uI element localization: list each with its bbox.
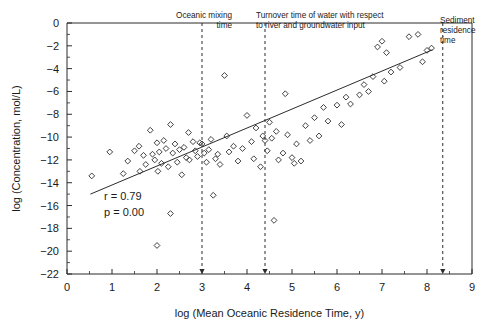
data-point bbox=[420, 59, 426, 65]
data-point bbox=[298, 158, 304, 164]
regression-line bbox=[90, 50, 432, 194]
annotation-label-turnover-time-water: Turnover time of water with respect bbox=[256, 11, 384, 20]
annotation-arrowhead-turnover-time-water bbox=[262, 269, 267, 274]
data-point bbox=[161, 138, 167, 144]
data-point bbox=[132, 148, 138, 154]
annotation-arrowhead-sediment-residence-time bbox=[440, 269, 445, 274]
y-tick-label: −20 bbox=[40, 245, 59, 257]
data-point bbox=[152, 157, 158, 163]
y-tick-label: −4 bbox=[46, 63, 59, 75]
data-point bbox=[388, 69, 394, 75]
data-point bbox=[186, 130, 192, 136]
data-point bbox=[339, 122, 345, 128]
data-point bbox=[155, 168, 161, 174]
data-point bbox=[208, 136, 214, 142]
x-tick-label: 2 bbox=[154, 281, 160, 293]
data-point bbox=[271, 217, 277, 223]
data-point bbox=[125, 158, 131, 164]
data-point bbox=[276, 157, 282, 163]
y-tick-label: −18 bbox=[40, 222, 59, 234]
data-point bbox=[170, 150, 176, 156]
data-point bbox=[174, 159, 180, 165]
data-point bbox=[348, 101, 354, 107]
y-tick-label: 0 bbox=[53, 17, 59, 29]
data-point bbox=[379, 38, 385, 44]
data-point bbox=[273, 128, 279, 134]
data-point bbox=[366, 89, 372, 95]
data-point bbox=[325, 118, 331, 124]
data-point bbox=[168, 122, 174, 128]
annotation-label-sediment-residence-time: Sediment bbox=[440, 16, 475, 25]
data-point bbox=[415, 32, 421, 38]
data-point bbox=[321, 105, 327, 111]
data-point bbox=[222, 73, 228, 79]
data-point bbox=[156, 149, 162, 155]
x-tick-label: 1 bbox=[109, 281, 115, 293]
y-tick-label: −10 bbox=[40, 131, 59, 143]
annotation-label-sediment-residence-time: residence bbox=[440, 26, 476, 35]
annotation-label-oceanic-mixing-time: time bbox=[217, 21, 233, 30]
data-point bbox=[89, 173, 95, 179]
data-point bbox=[231, 143, 237, 149]
data-point bbox=[120, 171, 126, 177]
y-tick-label: −12 bbox=[40, 154, 59, 166]
y-tick-label: −2 bbox=[46, 40, 59, 52]
y-tick-label: −8 bbox=[46, 108, 59, 120]
y-tick-label: −22 bbox=[40, 268, 59, 280]
data-point bbox=[291, 160, 297, 166]
x-tick-label: 5 bbox=[289, 281, 295, 293]
data-point bbox=[240, 146, 246, 152]
data-point bbox=[303, 123, 309, 129]
data-point bbox=[375, 44, 381, 50]
data-point bbox=[136, 143, 142, 149]
data-point bbox=[334, 102, 340, 108]
data-point bbox=[154, 140, 160, 146]
data-point bbox=[285, 132, 291, 138]
data-point bbox=[107, 149, 113, 155]
data-point bbox=[357, 92, 363, 98]
scatter-plot-figure: 01234567890−2−4−6−8−10−12−14−16−18−20−22… bbox=[0, 0, 490, 327]
data-point bbox=[206, 147, 212, 153]
data-point bbox=[150, 151, 156, 157]
data-point bbox=[165, 164, 171, 170]
data-point bbox=[269, 135, 275, 141]
data-point bbox=[406, 34, 412, 40]
x-tick-label: 4 bbox=[244, 281, 250, 293]
data-point bbox=[289, 155, 295, 161]
y-tick-label: −6 bbox=[46, 85, 59, 97]
data-point bbox=[143, 162, 149, 168]
data-point bbox=[361, 82, 367, 88]
plot-canvas: 01234567890−2−4−6−8−10−12−14−16−18−20−22… bbox=[0, 0, 490, 327]
data-point bbox=[179, 172, 185, 178]
data-point bbox=[210, 192, 216, 198]
data-point bbox=[147, 127, 153, 133]
annotation-label-sediment-residence-time: time bbox=[440, 36, 456, 45]
data-point bbox=[251, 156, 257, 162]
x-tick-label: 3 bbox=[199, 281, 205, 293]
data-point bbox=[190, 139, 196, 145]
x-tick-label: 7 bbox=[379, 281, 385, 293]
data-point bbox=[168, 211, 174, 217]
data-point bbox=[384, 50, 390, 56]
data-point bbox=[381, 78, 387, 84]
data-point bbox=[267, 119, 273, 125]
data-point bbox=[235, 158, 241, 164]
annotation-label-oceanic-mixing-time: Oceanic mixing bbox=[176, 11, 232, 20]
y-tick-label: −14 bbox=[40, 177, 59, 189]
data-point bbox=[307, 138, 313, 144]
annotation-arrowhead-oceanic-mixing-time bbox=[199, 269, 204, 274]
data-point bbox=[217, 162, 223, 168]
annotation-label-turnover-time-water: to river and groundwater input bbox=[256, 21, 366, 30]
data-point bbox=[294, 141, 300, 147]
data-point bbox=[253, 125, 259, 131]
data-point bbox=[163, 146, 169, 152]
y-axis-title: log (Concentration, mol/L) bbox=[10, 85, 22, 212]
data-point bbox=[249, 139, 255, 145]
data-point bbox=[282, 91, 288, 97]
data-point bbox=[226, 149, 232, 155]
data-point bbox=[280, 150, 286, 156]
data-point bbox=[141, 152, 147, 158]
data-point bbox=[244, 113, 250, 119]
x-axis-title: log (Mean Oceanic Residence Time, y) bbox=[175, 307, 365, 319]
plot-frame bbox=[67, 23, 472, 274]
